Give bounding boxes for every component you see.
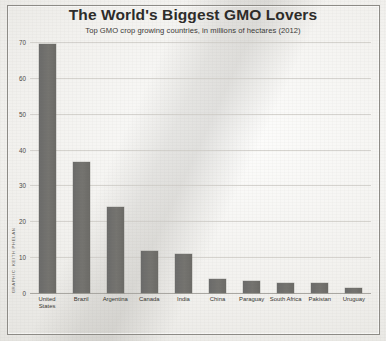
bar-slot — [30, 42, 64, 293]
bar-slot — [98, 42, 132, 293]
y-axis-tick-label: 20 — [19, 218, 26, 225]
y-axis-tick-label: 50 — [19, 110, 26, 117]
x-axis-label: United States — [30, 296, 64, 324]
bar[interactable] — [311, 283, 328, 293]
bar-slot — [235, 42, 269, 293]
x-axis-label: Uruguay — [337, 296, 371, 324]
bar-slot — [64, 42, 98, 293]
y-axis-tick-label: 40 — [19, 146, 26, 153]
x-axis-label: China — [200, 296, 234, 324]
bar[interactable] — [243, 281, 260, 293]
x-axis-label: Brazil — [64, 296, 98, 324]
bar[interactable] — [107, 207, 124, 293]
x-axis-label: Argentina — [98, 296, 132, 324]
bar-slot — [200, 42, 234, 293]
y-axis-tick-label: 30 — [19, 182, 26, 189]
bar-slot — [337, 42, 371, 293]
y-axis-tick-label: 0 — [22, 290, 26, 297]
bar[interactable] — [209, 279, 226, 293]
chart-subtitle: Top GMO crop growing countries, in milli… — [0, 26, 386, 35]
bar[interactable] — [141, 251, 158, 293]
x-axis-labels: United StatesBrazilArgentinaCanadaIndiaC… — [30, 296, 371, 324]
bar-slot — [166, 42, 200, 293]
x-axis-label: Paraguay — [235, 296, 269, 324]
graphic-credit: GRAPHIC: KEITH PHELAN — [11, 225, 16, 297]
bar[interactable] — [277, 283, 294, 293]
y-axis-tick-label: 70 — [19, 39, 26, 46]
bar[interactable] — [73, 162, 90, 293]
x-axis-label: Canada — [132, 296, 166, 324]
bar[interactable] — [39, 44, 56, 293]
bar[interactable] — [175, 254, 192, 293]
bar-slot — [303, 42, 337, 293]
x-axis-label: India — [166, 296, 200, 324]
chart-page: GRAPHIC: KEITH PHELAN The World's Bigges… — [0, 0, 386, 341]
x-axis-label: South Africa — [269, 296, 303, 324]
y-axis-tick-label: 60 — [19, 74, 26, 81]
plot-area: 010203040506070 — [30, 42, 371, 293]
chart-title: The World's Biggest GMO Lovers — [0, 6, 386, 24]
bar[interactable] — [345, 288, 362, 293]
y-axis-tick-label: 10 — [19, 254, 26, 261]
x-axis-label: Pakistan — [303, 296, 337, 324]
bar-slot — [269, 42, 303, 293]
bar-slot — [132, 42, 166, 293]
bar-series — [30, 42, 371, 293]
gridline — [30, 293, 371, 294]
